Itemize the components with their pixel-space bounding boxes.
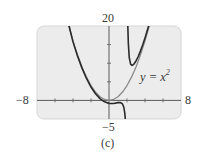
y-max-label: 20 [102,12,114,24]
figure-caption: (c) [101,137,114,149]
figure: 20 −5 −8 8 y = x2 (c) [0,0,199,160]
y-min-label: −5 [102,121,115,133]
x-min-label: −8 [16,94,29,106]
x-max-label: 8 [185,94,191,106]
curve-annotation: y = x2 [140,70,170,84]
